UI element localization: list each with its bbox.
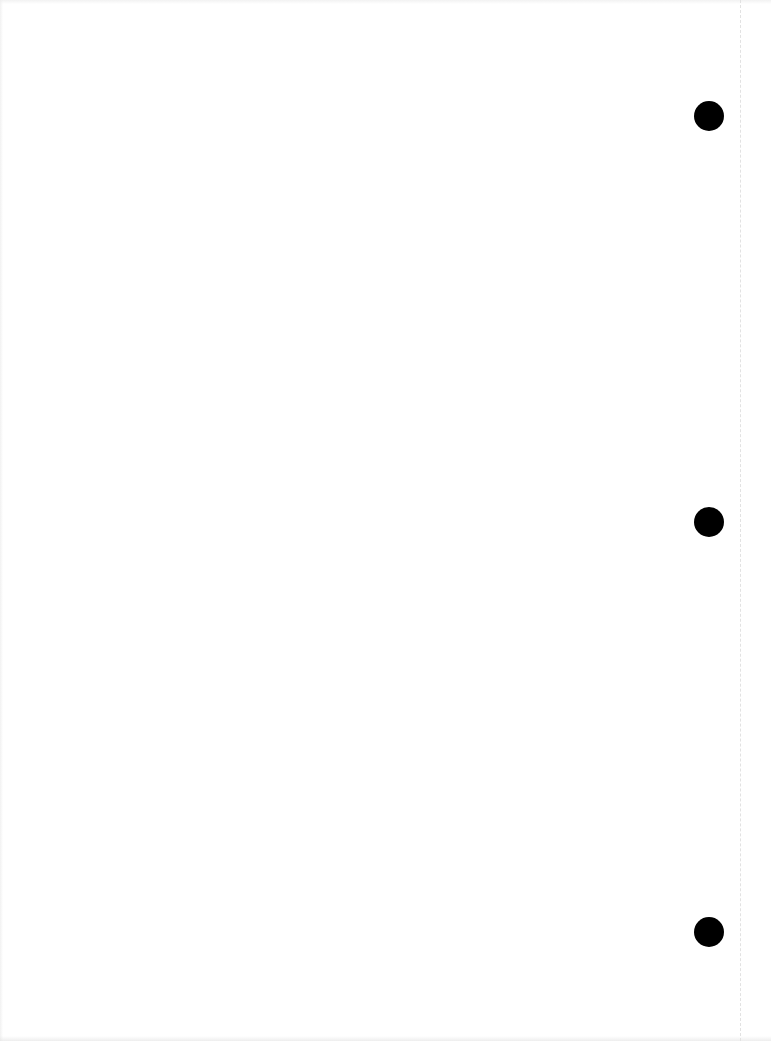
scanned-page <box>0 0 771 1041</box>
scan-edge-left <box>0 0 3 1041</box>
scan-edge-bottom <box>0 1036 771 1041</box>
punch-hole-middle <box>694 507 724 537</box>
punch-hole-bottom <box>694 917 724 947</box>
scan-edge-top <box>0 0 771 4</box>
fold-line <box>740 0 741 1041</box>
punch-hole-top <box>694 101 724 131</box>
